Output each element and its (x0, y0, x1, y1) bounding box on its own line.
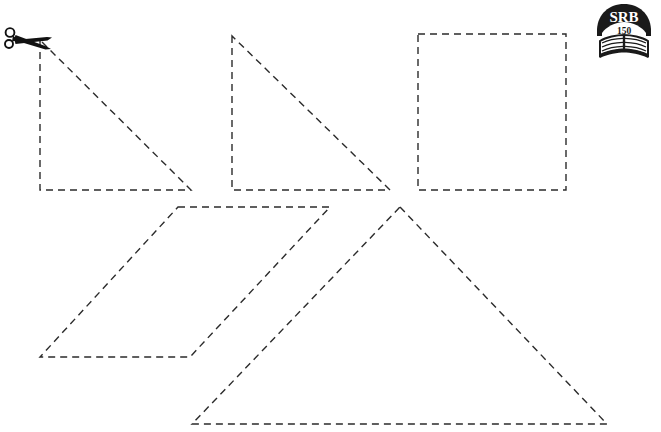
cutout-shapes-layer (0, 0, 661, 432)
logo-brand-text: SRB (609, 9, 638, 25)
scissors-icon (2, 22, 54, 62)
square-1 (418, 34, 566, 190)
shapes-group (40, 34, 607, 424)
parallelogram-1 (40, 207, 330, 357)
large-triangle-1 (192, 207, 607, 424)
logo-page-number: 150 (617, 26, 632, 36)
right-triangle-1 (40, 40, 191, 190)
srb-book-logo: SRB 150 (592, 2, 656, 64)
right-triangle-2 (232, 36, 390, 190)
worksheet-page: SRB 150 (0, 0, 661, 432)
